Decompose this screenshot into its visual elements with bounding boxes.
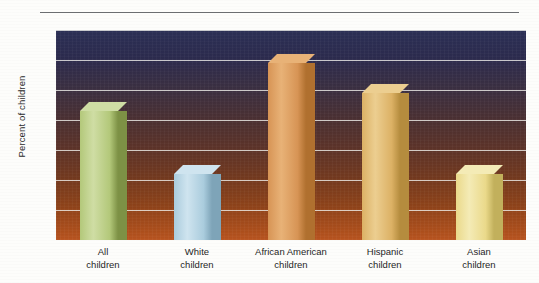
bar xyxy=(174,174,212,240)
x-axis-label-line1: African American xyxy=(255,246,327,259)
x-axis-label-line2: children xyxy=(367,259,403,272)
x-axis-label-line2: children xyxy=(180,259,213,272)
x-axis-label-line2: children xyxy=(86,259,119,272)
bar-front-face xyxy=(268,63,306,240)
x-axis-label: Asianchildren xyxy=(462,246,495,271)
plot-area: 05101520253035 xyxy=(56,30,526,240)
bar-side-face xyxy=(118,111,127,240)
bar-top-face xyxy=(268,54,315,63)
bar-top-face xyxy=(362,84,409,93)
x-axis-label: Allchildren xyxy=(86,246,119,271)
x-axis-label: Hispanicchildren xyxy=(367,246,403,271)
bar-top-face xyxy=(456,165,503,174)
bar-side-face xyxy=(494,174,503,240)
gridline: 35 xyxy=(56,30,526,31)
bar-front-face xyxy=(362,93,400,240)
bar-side-face xyxy=(400,93,409,240)
x-axis-label-line1: White xyxy=(180,246,213,259)
bar xyxy=(362,93,400,240)
x-axis-label-line2: children xyxy=(255,259,327,272)
x-axis-label-line1: Asian xyxy=(462,246,495,259)
x-axis-label: Whitechildren xyxy=(180,246,213,271)
x-axis-label: African Americanchildren xyxy=(255,246,327,271)
bar xyxy=(456,174,494,240)
x-axis-label-line1: Hispanic xyxy=(367,246,403,259)
bar-front-face xyxy=(80,111,118,240)
chart-page: Percent of children 05101520253035 Allch… xyxy=(0,0,539,283)
y-axis-title: Percent of children xyxy=(16,57,27,177)
top-horizontal-rule xyxy=(40,12,519,13)
x-axis-label-line2: children xyxy=(462,259,495,272)
bar xyxy=(80,111,118,240)
bar xyxy=(268,63,306,240)
bar-top-face xyxy=(174,165,221,174)
x-axis-label-line1: All xyxy=(86,246,119,259)
bar-side-face xyxy=(212,174,221,240)
bar-front-face xyxy=(174,174,212,240)
bar-top-face xyxy=(80,102,127,111)
x-axis-labels-group: AllchildrenWhitechildrenAfrican American… xyxy=(56,246,526,278)
bar-front-face xyxy=(456,174,494,240)
bar-side-face xyxy=(306,63,315,240)
